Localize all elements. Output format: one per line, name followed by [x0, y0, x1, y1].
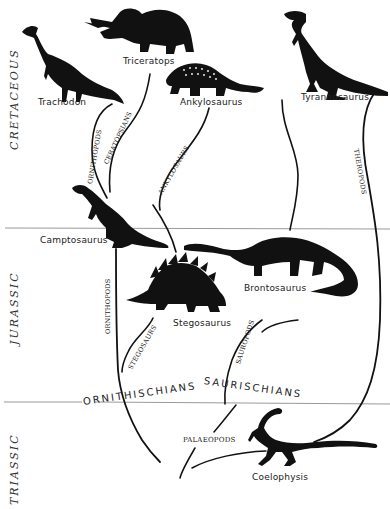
- branch-label-palaeopods: PALAEOPODS: [183, 436, 236, 444]
- branch-label-ornithopods-lower: ORNITHOPODS: [104, 279, 112, 334]
- species-label-ankylosaurus: Ankylosaurus: [180, 97, 243, 107]
- period-label-jurassic: JURASSIC: [8, 271, 21, 345]
- species-label-camptosaurus: Camptosaurus: [40, 235, 108, 245]
- species-label-brontosaurus: Brontosaurus: [244, 283, 306, 293]
- species-label-triceratops: Triceratops: [123, 56, 175, 66]
- species-label-coelophysis: Coelophysis: [252, 472, 308, 482]
- branch-palaeopods-lower: [180, 448, 195, 478]
- dinosaur-evolution-diagram: CRETACEOUS JURASSIC TRIASSIC Trachodon T…: [0, 0, 390, 509]
- branch-tyrannosaurus-to-saurischian: [282, 100, 298, 230]
- jurassic-triassic-divider-right: [95, 402, 390, 404]
- diagram-graphics: [0, 0, 390, 509]
- triceratops-silhouette: [84, 8, 194, 54]
- tyrannosaurus-silhouette: [284, 11, 388, 100]
- branch-sauropods-tail: [262, 320, 298, 332]
- period-label-cretaceous: CRETACEOUS: [8, 48, 21, 150]
- coelophysis-silhouette: [248, 408, 377, 466]
- species-label-stegosaurus: Stegosaurus: [173, 318, 231, 328]
- cretaceous-jurassic-divider: [5, 228, 390, 229]
- stegosaurus-silhouette: [126, 252, 226, 312]
- period-label-triassic: TRIASSIC: [8, 433, 21, 505]
- ankylosaurus-silhouette: [166, 63, 264, 96]
- branch-to-coelophysis: [192, 451, 266, 468]
- species-label-trachodon: Trachodon: [38, 97, 86, 107]
- species-label-tyrannosaurus: Tyrannosaurus: [301, 92, 369, 102]
- branch-palaeopods-upper: [214, 405, 236, 432]
